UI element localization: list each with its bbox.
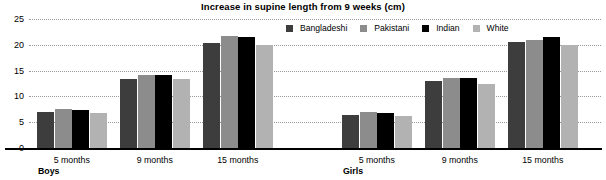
bar xyxy=(37,112,54,148)
bar xyxy=(395,116,412,149)
bar-chart: Increase in supine length from 9 weeks (… xyxy=(0,0,606,180)
bars-layer xyxy=(29,19,601,148)
bar xyxy=(561,45,578,148)
x-category-label: 5 months xyxy=(32,155,112,166)
bar xyxy=(526,40,543,148)
y-tick-label: 20 xyxy=(0,41,24,50)
x-category-label: 15 months xyxy=(198,155,278,166)
x-category-label: 5 months xyxy=(337,155,417,166)
y-tick-label: 15 xyxy=(0,67,24,76)
x-group-label: Boys xyxy=(38,166,60,177)
bar xyxy=(120,79,137,148)
bar xyxy=(138,75,155,148)
bar xyxy=(55,109,72,148)
bar xyxy=(221,36,238,148)
x-category-label: 15 months xyxy=(503,155,583,166)
bar xyxy=(155,75,172,148)
bar xyxy=(543,37,560,148)
x-category-label: 9 months xyxy=(420,155,500,166)
y-tick-label: 5 xyxy=(0,118,24,127)
x-group-label: Girls xyxy=(343,166,363,177)
bar xyxy=(203,43,220,148)
bar xyxy=(443,78,460,148)
bar xyxy=(377,113,394,148)
bar xyxy=(173,79,190,148)
x-axis-line xyxy=(5,148,602,150)
bar xyxy=(238,37,255,148)
bar xyxy=(478,84,495,149)
bar xyxy=(360,112,377,148)
bar xyxy=(425,81,442,148)
y-tick-label: 10 xyxy=(0,92,24,101)
y-tick-label: 25 xyxy=(0,15,24,24)
bar xyxy=(342,115,359,148)
x-category-label: 9 months xyxy=(115,155,195,166)
bar xyxy=(508,42,525,148)
bar xyxy=(256,45,273,148)
bar xyxy=(460,78,477,148)
chart-title: Increase in supine length from 9 weeks (… xyxy=(0,1,606,13)
x-axis-labels: 5 months9 months15 months5 months9 month… xyxy=(0,152,606,180)
bar xyxy=(90,113,107,148)
bar xyxy=(72,110,89,148)
plot-area xyxy=(29,19,601,148)
